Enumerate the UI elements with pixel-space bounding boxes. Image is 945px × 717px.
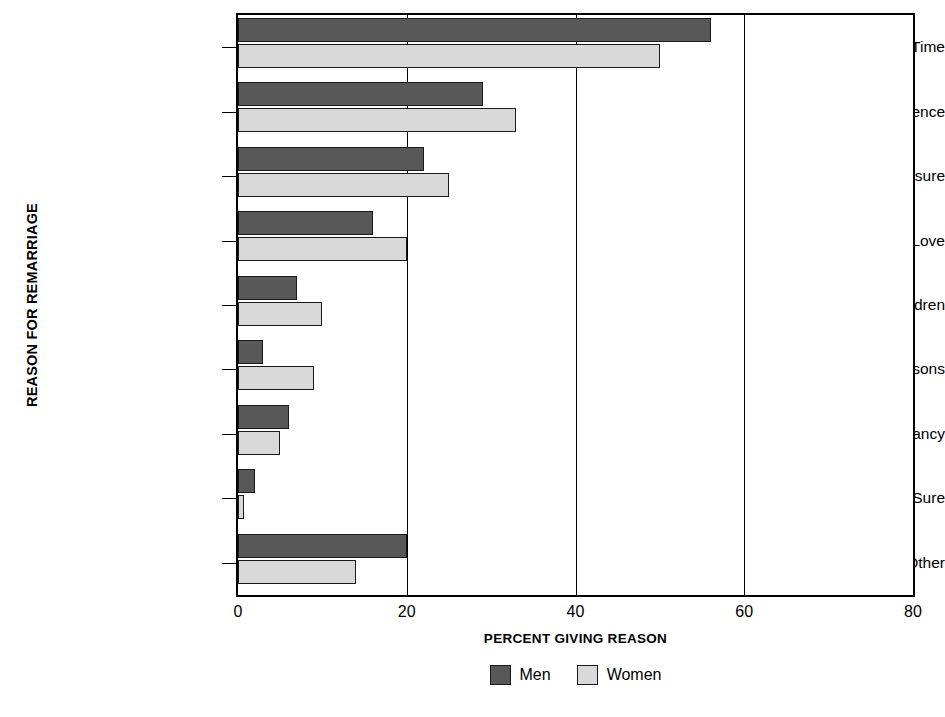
- bar-group: [238, 208, 913, 272]
- legend-entry-men: Men: [490, 665, 551, 685]
- plot-area: [236, 13, 915, 597]
- y-tick-mark: [222, 47, 236, 48]
- y-tick-mark: [222, 305, 236, 306]
- bar-women: [238, 173, 449, 197]
- y-tick-mark: [222, 369, 236, 370]
- bar-group: [238, 15, 913, 79]
- legend-swatch-icon: [577, 665, 598, 685]
- y-tick-mark: [222, 112, 236, 113]
- bar-group: [238, 531, 913, 595]
- x-axis-title: PERCENT GIVING REASON: [236, 631, 915, 646]
- x-tick-label: 80: [883, 603, 943, 621]
- bar-group: [238, 337, 913, 401]
- bar-men: [238, 534, 407, 558]
- bar-women: [238, 302, 322, 326]
- bar-men: [238, 469, 255, 493]
- bar-group: [238, 402, 913, 466]
- plot-inner: [238, 15, 913, 595]
- bar-men: [238, 405, 289, 429]
- bar-men: [238, 18, 711, 42]
- legend-swatch-icon: [490, 665, 511, 685]
- bar-group: [238, 79, 913, 143]
- y-tick-mark: [222, 434, 236, 435]
- legend-label: Men: [520, 666, 551, 684]
- y-axis-title: REASON FOR REMARRIAGE: [24, 175, 40, 435]
- legend-label: Women: [607, 666, 662, 684]
- x-tick-label: 20: [377, 603, 437, 621]
- x-tick-label: 60: [714, 603, 774, 621]
- bar-group: [238, 144, 913, 208]
- bar-group: [238, 466, 913, 530]
- bar-men: [238, 340, 263, 364]
- bar-men: [238, 147, 424, 171]
- legend-entry-women: Women: [577, 665, 662, 685]
- x-tick-label: 40: [546, 603, 606, 621]
- y-tick-mark: [222, 241, 236, 242]
- chart-legend: MenWomen: [236, 665, 915, 685]
- bar-women: [238, 495, 244, 519]
- bar-women: [238, 108, 516, 132]
- bar-men: [238, 276, 297, 300]
- bar-men: [238, 211, 373, 235]
- bar-group: [238, 273, 913, 337]
- bar-women: [238, 431, 280, 455]
- y-tick-mark: [222, 498, 236, 499]
- bar-women: [238, 44, 660, 68]
- bar-women: [238, 560, 356, 584]
- bar-women: [238, 366, 314, 390]
- bar-women: [238, 237, 407, 261]
- bar-men: [238, 82, 483, 106]
- y-tick-mark: [222, 563, 236, 564]
- x-tick-label: 0: [208, 603, 268, 621]
- y-tick-mark: [222, 176, 236, 177]
- bar-chart-figure: REASON FOR REMARRIAGE It Was TimeConveni…: [0, 0, 945, 717]
